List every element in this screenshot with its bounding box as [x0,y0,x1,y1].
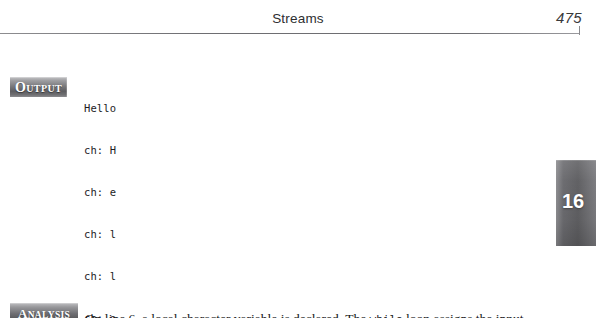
header-divider-tick [579,26,580,35]
body-text-part2: loop assigns the input [403,311,524,318]
page-title: Streams [0,11,596,26]
analysis-badge: ANALYSIS [10,303,78,318]
output-badge-initial: O [15,80,26,95]
analysis-badge-rest: NALYSIS [28,310,70,318]
analysis-badge-label: ANALYSIS [10,304,78,318]
output-line: ch: H [84,143,142,157]
header-divider [0,33,580,34]
inline-code-while: while [370,313,403,318]
analysis-badge-initial: A [18,306,28,318]
console-output: Hello ch: H ch: e ch: l ch: l ch: o ch: … [84,73,142,318]
output-badge: OUTPUT [10,77,67,97]
output-line: Hello [84,101,142,115]
body-text-part1: On line 6, a local character variable is… [85,311,370,318]
output-badge-rest: UTPUT [26,83,62,94]
output-badge-label: OUTPUT [10,78,67,97]
chapter-tab: 16 [556,160,596,246]
page-number: 475 [556,9,582,26]
body-paragraph: On line 6, a local character variable is… [85,310,545,318]
output-line: ch: l [84,227,142,241]
running-head: Streams 475 [0,0,596,36]
output-line: ch: l [84,269,142,283]
output-line: ch: e [84,185,142,199]
chapter-number: 16 [556,190,590,213]
